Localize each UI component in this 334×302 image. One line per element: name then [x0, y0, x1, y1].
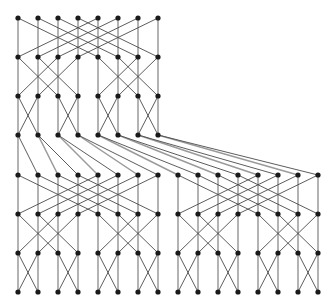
graph-node [95, 93, 100, 98]
graph-node [35, 132, 40, 137]
graph-node [95, 132, 100, 137]
graph-node [215, 211, 220, 216]
graph-node [235, 172, 240, 177]
graph-node [175, 172, 180, 177]
graph-node [115, 211, 120, 216]
edge-fanout-vertical [58, 135, 98, 175]
edge-fanout-vertical [118, 135, 218, 175]
graph-node [55, 250, 60, 255]
graph-node [95, 54, 100, 59]
graph-node [195, 172, 200, 177]
graph-node [15, 132, 20, 137]
graph-node [175, 250, 180, 255]
graph-node [255, 250, 260, 255]
graph-node [15, 54, 20, 59]
graph-node [55, 93, 60, 98]
graph-node [95, 250, 100, 255]
graph-node [135, 54, 140, 59]
graph-node [75, 54, 80, 59]
graph-node [55, 211, 60, 216]
graph-node [295, 289, 300, 294]
graph-node [95, 172, 100, 177]
graph-node [75, 250, 80, 255]
graph-node [35, 15, 40, 20]
graph-node [135, 250, 140, 255]
graph-node [15, 250, 20, 255]
graph-node [115, 132, 120, 137]
graph-node [75, 93, 80, 98]
vertical-edge-layer [18, 18, 318, 292]
graph-node [295, 172, 300, 177]
graph-node [55, 132, 60, 137]
graph-node [75, 211, 80, 216]
graph-node [315, 289, 320, 294]
graph-node [155, 93, 160, 98]
graph-node [175, 211, 180, 216]
graph-node [95, 289, 100, 294]
graph-node [235, 250, 240, 255]
graph-node [235, 289, 240, 294]
graph-node [135, 132, 140, 137]
graph-node [155, 54, 160, 59]
graph-node [75, 132, 80, 137]
graph-node [215, 289, 220, 294]
graph-node [35, 250, 40, 255]
graph-node [255, 289, 260, 294]
graph-node [35, 172, 40, 177]
graph-node [15, 15, 20, 20]
graph-node [155, 211, 160, 216]
graph-node [135, 93, 140, 98]
graph-node [275, 250, 280, 255]
graph-node [175, 289, 180, 294]
graph-node [195, 211, 200, 216]
graph-node [255, 211, 260, 216]
graph-node [95, 211, 100, 216]
graph-node [135, 211, 140, 216]
graph-node [115, 250, 120, 255]
graph-node [115, 54, 120, 59]
graph-node [15, 211, 20, 216]
graph-node [155, 172, 160, 177]
graph-node [55, 172, 60, 177]
graph-node [255, 172, 260, 177]
graph-node [55, 15, 60, 20]
edge-fanout-diagonal [38, 135, 78, 175]
edge-fanout-vertical [78, 135, 138, 175]
graph-node [55, 289, 60, 294]
graph-node [315, 172, 320, 177]
graph-node [215, 250, 220, 255]
graph-node [75, 289, 80, 294]
graph-node [275, 211, 280, 216]
graph-node [295, 211, 300, 216]
graph-node [35, 54, 40, 59]
edge-fanout-vertical [138, 135, 258, 175]
graph-node [15, 289, 20, 294]
graph-node [155, 250, 160, 255]
graph-node [155, 15, 160, 20]
graph-node [155, 289, 160, 294]
graph-node [315, 211, 320, 216]
graph-node [55, 54, 60, 59]
butterfly-network-diagram [0, 0, 334, 302]
graph-node [15, 172, 20, 177]
graph-node [315, 250, 320, 255]
graph-node [215, 172, 220, 177]
edge-fanout-diagonal [138, 135, 278, 175]
graph-node [35, 289, 40, 294]
graph-node [115, 289, 120, 294]
graph-node [115, 93, 120, 98]
graph-node [155, 132, 160, 137]
edge-fanout-diagonal [78, 135, 158, 175]
graph-node [35, 211, 40, 216]
graph-node [115, 172, 120, 177]
graph-node [95, 15, 100, 20]
graph-node [75, 172, 80, 177]
graph-node [195, 289, 200, 294]
graph-node [275, 172, 280, 177]
graph-node [195, 250, 200, 255]
graph-node [235, 211, 240, 216]
graph-node [115, 15, 120, 20]
graph-node [135, 15, 140, 20]
graph-node [75, 15, 80, 20]
edge-fanout-vertical [38, 135, 58, 175]
